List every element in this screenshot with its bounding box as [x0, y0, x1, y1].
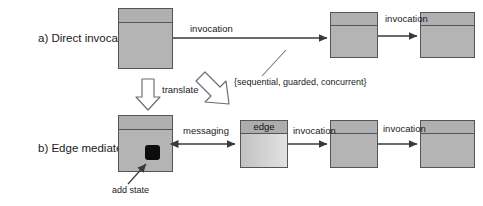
connector-layer — [0, 0, 483, 206]
translate-block-arrow-down — [136, 79, 160, 110]
add-state-leader-arrow — [128, 164, 146, 184]
translate-block-arrow-diagonal — [196, 72, 229, 104]
annotation-leader-line — [262, 50, 286, 76]
diagram-canvas: a) Direct invocation invocation invocati… — [0, 0, 483, 206]
